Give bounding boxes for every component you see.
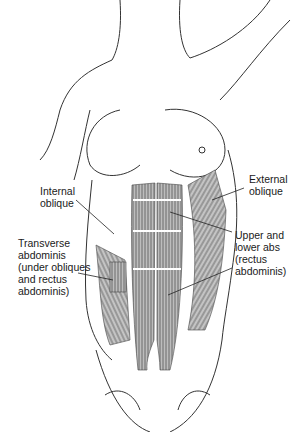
anatomy-illustration	[0, 0, 302, 432]
label-rectus-abdominis: Upper and lower abs (rectus abdominis)	[235, 229, 286, 277]
label-external-oblique: External oblique	[249, 173, 288, 197]
internal-oblique	[96, 245, 130, 345]
rectus-abdominis	[131, 183, 182, 370]
label-internal-oblique: Internal oblique	[40, 185, 75, 209]
transverse-abdominis	[110, 262, 126, 292]
external-oblique	[188, 170, 226, 330]
label-transverse-abdominis: Transverse abdominis (under obliques and…	[18, 237, 90, 297]
